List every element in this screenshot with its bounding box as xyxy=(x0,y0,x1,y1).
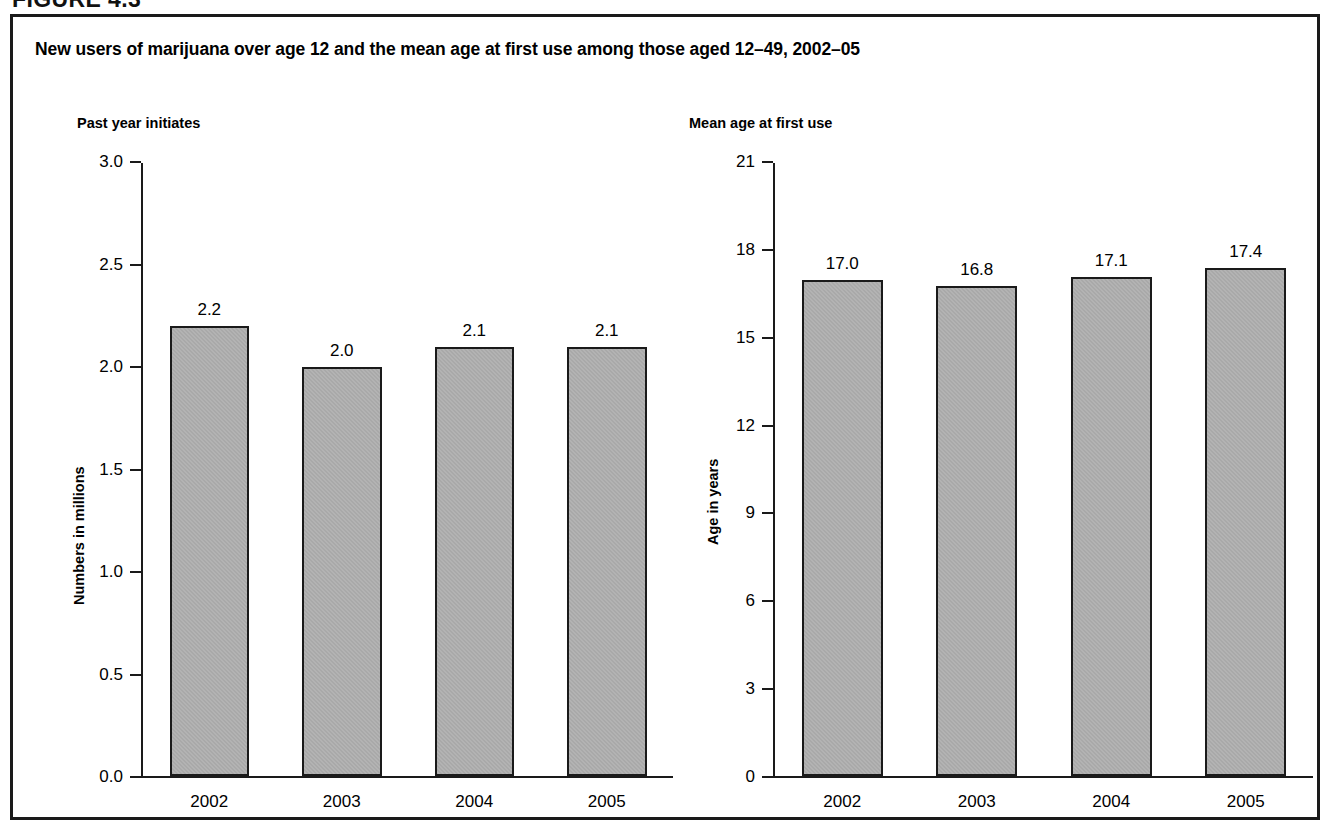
bar-slot: 2.12005 xyxy=(567,163,647,776)
x-axis-label-2004: 2004 xyxy=(435,792,515,812)
bar-left-2005[interactable] xyxy=(567,347,647,776)
bar-slot: 17.42005 xyxy=(1205,163,1286,776)
y-tick-label-right-1: 18 xyxy=(736,240,755,257)
bar-value-label: 2.2 xyxy=(170,301,250,318)
x-axis-label-2002: 2002 xyxy=(802,792,883,812)
y-tick-left-4: 1.0 xyxy=(130,571,141,573)
bar-right-2002[interactable] xyxy=(802,280,883,776)
x-axis-label-2002: 2002 xyxy=(170,792,250,812)
y-tick-label-left-0: 3.0 xyxy=(99,153,123,170)
chart-panel-mean-age-first-use: Mean age at first use Age in years 21181… xyxy=(661,115,1321,815)
y-tick-label-left-2: 2.0 xyxy=(99,358,123,375)
y-tick-label-left-6: 0.0 xyxy=(99,768,123,785)
bar-slot: 2.12004 xyxy=(435,163,515,776)
bar-right-2005[interactable] xyxy=(1205,268,1286,776)
bar-value-label: 17.4 xyxy=(1205,243,1286,260)
y-tick-right-5: 6 xyxy=(762,600,773,602)
y-tick-label-right-7: 0 xyxy=(746,768,755,785)
bar-right-2004[interactable] xyxy=(1071,277,1152,776)
y-axis-title-right: Age in years xyxy=(705,459,721,545)
y-tick-right-4: 9 xyxy=(762,512,773,514)
y-tick-label-right-5: 6 xyxy=(746,592,755,609)
bar-value-label: 17.1 xyxy=(1071,252,1152,269)
bar-slot: 17.02002 xyxy=(802,163,883,776)
y-tick-label-right-3: 12 xyxy=(736,416,755,433)
figure-number-label: FIGURE 4.3 xyxy=(12,0,141,13)
plot-area-left: 3.02.52.01.51.00.50.0 2.220022.020032.12… xyxy=(141,163,673,778)
x-axis-label-2005: 2005 xyxy=(567,792,647,812)
y-tick-right-1: 18 xyxy=(762,249,773,251)
y-tick-label-left-5: 0.5 xyxy=(99,665,123,682)
y-tick-right-7: 0 xyxy=(762,776,773,778)
y-tick-right-0: 21 xyxy=(762,161,773,163)
chart-subtitle-left: Past year initiates xyxy=(77,115,200,131)
x-axis-line-left xyxy=(141,776,673,778)
y-tick-label-left-3: 1.5 xyxy=(99,460,123,477)
y-tick-right-3: 12 xyxy=(762,425,773,427)
y-axis-title-left: Numbers in millions xyxy=(71,466,87,605)
x-axis-label-2004: 2004 xyxy=(1071,792,1152,812)
bar-slot: 16.82003 xyxy=(936,163,1017,776)
y-tick-left-6: 0.0 xyxy=(130,776,141,778)
y-tick-label-right-6: 3 xyxy=(746,680,755,697)
bar-value-label: 2.0 xyxy=(302,342,382,359)
y-tick-left-1: 2.5 xyxy=(130,264,141,266)
bar-group-right: 17.0200216.8200317.1200417.42005 xyxy=(775,163,1313,776)
x-axis-label-2005: 2005 xyxy=(1205,792,1286,812)
bar-value-label: 2.1 xyxy=(435,322,515,339)
y-tick-label-left-1: 2.5 xyxy=(99,255,123,272)
bar-group-left: 2.220022.020032.120042.12005 xyxy=(143,163,673,776)
y-tick-right-6: 3 xyxy=(762,688,773,690)
bar-slot: 2.22002 xyxy=(170,163,250,776)
y-tick-left-5: 0.5 xyxy=(130,674,141,676)
chart-panel-past-year-initiates: Past year initiates Numbers in millions … xyxy=(33,115,683,815)
y-tick-left-3: 1.5 xyxy=(130,469,141,471)
bar-left-2004[interactable] xyxy=(435,347,515,776)
figure-title: New users of marijuana over age 12 and t… xyxy=(35,39,860,60)
bar-left-2002[interactable] xyxy=(170,326,250,776)
bar-value-label: 17.0 xyxy=(802,255,883,272)
bar-value-label: 16.8 xyxy=(936,261,1017,278)
y-tick-right-2: 15 xyxy=(762,337,773,339)
bar-left-2003[interactable] xyxy=(302,367,382,776)
bar-slot: 17.12004 xyxy=(1071,163,1152,776)
y-tick-label-right-0: 21 xyxy=(736,153,755,170)
y-tick-label-left-4: 1.0 xyxy=(99,563,123,580)
plot-area-right: 211815129630 17.0200216.8200317.1200417.… xyxy=(773,163,1313,778)
bar-slot: 2.02003 xyxy=(302,163,382,776)
bar-right-2003[interactable] xyxy=(936,286,1017,776)
x-axis-label-2003: 2003 xyxy=(302,792,382,812)
chart-subtitle-right: Mean age at first use xyxy=(689,115,832,131)
y-tick-left-0: 3.0 xyxy=(130,161,141,163)
y-tick-left-2: 2.0 xyxy=(130,366,141,368)
bar-value-label: 2.1 xyxy=(567,322,647,339)
figure-frame: New users of marijuana over age 12 and t… xyxy=(10,14,1320,820)
y-tick-label-right-4: 9 xyxy=(746,504,755,521)
x-axis-line-right xyxy=(773,776,1313,778)
x-axis-label-2003: 2003 xyxy=(936,792,1017,812)
y-tick-label-right-2: 15 xyxy=(736,328,755,345)
